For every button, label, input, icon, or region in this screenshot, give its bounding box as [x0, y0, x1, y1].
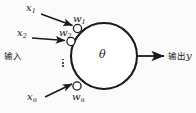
- input-group-label: 输入: [4, 52, 22, 61]
- synapse-node-icon-n: [73, 82, 81, 90]
- input-label-x1: x1: [26, 3, 36, 13]
- input-label-xn: xn: [27, 92, 37, 102]
- input-arrow-n: [45, 84, 72, 97]
- output-group-text: 输出: [168, 51, 186, 61]
- weight-label-w2: w2: [59, 28, 72, 38]
- neuron-diagram-figure: x1 x2 xn w1 w2 wn θ 输入 输出y: [0, 0, 196, 113]
- output-variable: y: [186, 50, 192, 61]
- synapse-node-icon-1: [73, 24, 81, 32]
- threshold-symbol: θ: [99, 49, 106, 60]
- output-group-label: 输出y: [168, 51, 192, 61]
- weight-label-wn: wn: [72, 92, 85, 102]
- input-label-x2: x2: [17, 28, 27, 38]
- weight-label-w1: w1: [73, 14, 86, 24]
- input-arrow-2: [32, 38, 65, 41]
- input-arrow-1: [41, 14, 73, 26]
- vertical-ellipsis: [62, 57, 64, 69]
